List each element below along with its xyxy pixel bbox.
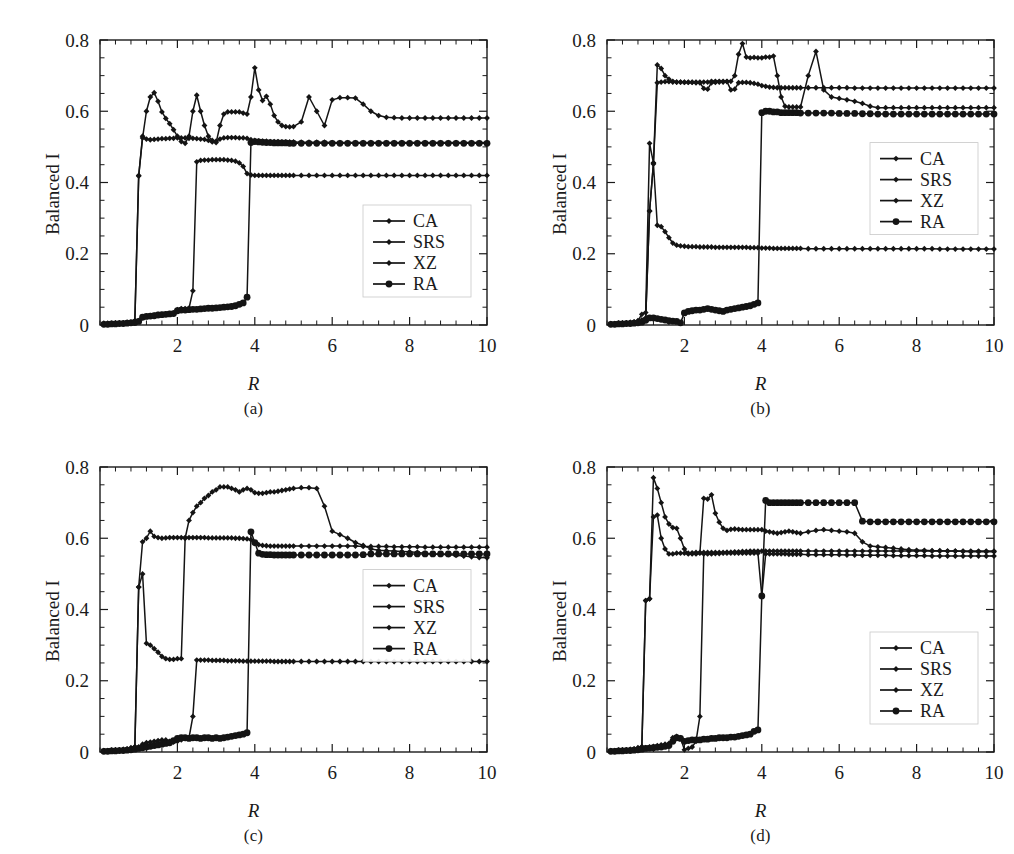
data-point <box>875 105 881 111</box>
data-point <box>360 172 366 178</box>
data-point <box>937 553 943 559</box>
data-point <box>836 499 843 506</box>
x-tick-label: 10 <box>985 762 1004 783</box>
data-point <box>244 294 251 301</box>
data-point <box>913 518 920 525</box>
data-point <box>291 543 297 549</box>
chart-svg-a: 24681000.20.40.60.8CASRSXZRA <box>0 0 507 427</box>
data-point <box>829 528 835 534</box>
data-point <box>298 659 304 665</box>
y-tick-label: 0 <box>587 315 597 336</box>
data-point <box>921 105 927 111</box>
data-point <box>921 111 928 118</box>
data-point <box>291 485 297 491</box>
data-point <box>898 105 904 111</box>
data-point <box>875 544 881 550</box>
y-tick-label: 0 <box>587 742 597 763</box>
y-tick-label: 0.4 <box>65 599 89 620</box>
data-point <box>983 111 990 118</box>
data-point <box>890 105 896 111</box>
data-point <box>468 140 475 147</box>
data-point <box>414 172 420 178</box>
data-point <box>386 645 393 652</box>
data-point <box>893 218 900 225</box>
data-point <box>406 140 413 147</box>
data-point <box>360 551 367 558</box>
data-point <box>438 544 444 550</box>
data-point <box>198 108 204 114</box>
data-point <box>248 94 254 100</box>
panel-a: 24681000.20.40.60.8CASRSXZRA RBalanced I… <box>0 0 507 427</box>
data-point <box>867 552 873 558</box>
data-point <box>306 552 313 559</box>
data-point <box>991 553 997 559</box>
data-point <box>391 172 397 178</box>
data-point <box>890 111 897 118</box>
data-point <box>322 172 328 178</box>
data-point <box>914 85 920 91</box>
data-point <box>960 105 966 111</box>
data-point <box>322 659 328 665</box>
data-point <box>445 115 451 121</box>
data-point <box>867 85 873 91</box>
y-axis-label: Balanced I <box>549 153 571 235</box>
data-point <box>898 553 904 559</box>
series-xz <box>101 657 490 754</box>
data-point <box>836 110 843 117</box>
data-point <box>386 281 393 288</box>
data-point <box>337 552 344 559</box>
data-point <box>484 140 491 147</box>
x-tick-label: 10 <box>478 762 497 783</box>
data-point <box>414 115 420 121</box>
data-point <box>805 110 812 117</box>
chart-svg-c: 24681000.20.40.60.8CASRSXZRA <box>0 427 507 854</box>
y-tick-label: 0.6 <box>572 101 596 122</box>
y-tick-label: 0.6 <box>572 528 596 549</box>
data-point <box>774 73 780 79</box>
data-point <box>991 85 997 91</box>
data-point <box>337 95 343 101</box>
data-point <box>391 115 397 121</box>
data-point <box>476 551 483 558</box>
data-point <box>905 111 912 118</box>
data-point <box>437 140 444 147</box>
data-point <box>398 551 405 558</box>
data-point <box>836 528 842 534</box>
data-point <box>798 85 804 91</box>
data-point <box>313 552 320 559</box>
x-tick-label: 2 <box>173 762 183 783</box>
data-point <box>875 85 881 91</box>
legend-label: SRS <box>920 170 952 190</box>
y-axis-label: Balanced I <box>549 580 571 662</box>
data-point <box>461 544 467 550</box>
data-point <box>883 105 889 111</box>
data-point <box>438 115 444 121</box>
data-point <box>821 552 827 558</box>
data-point <box>399 115 405 121</box>
data-point <box>983 85 989 91</box>
x-tick-label: 6 <box>834 762 844 783</box>
data-point <box>736 51 742 57</box>
data-point <box>867 246 873 252</box>
data-point <box>844 85 850 91</box>
data-point <box>337 532 343 538</box>
y-tick-label: 0.8 <box>65 30 89 51</box>
data-point <box>406 551 413 558</box>
data-point <box>383 551 390 558</box>
data-point <box>914 553 920 559</box>
y-tick-label: 0.4 <box>572 599 596 620</box>
data-point <box>883 85 889 91</box>
data-point <box>968 246 974 252</box>
x-tick-label: 2 <box>173 335 183 356</box>
data-point <box>391 551 398 558</box>
data-point <box>778 94 784 100</box>
data-point <box>194 92 200 98</box>
data-point <box>983 105 989 111</box>
data-point <box>353 540 359 546</box>
data-point <box>921 85 927 91</box>
data-point <box>929 246 935 252</box>
data-point <box>429 551 436 558</box>
legend-label: XZ <box>920 680 944 700</box>
data-point <box>414 544 420 550</box>
data-point <box>658 500 664 506</box>
